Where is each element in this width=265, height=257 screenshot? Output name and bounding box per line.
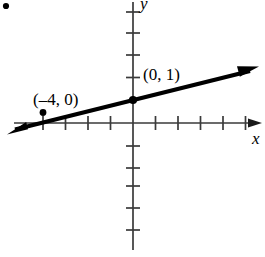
axes-group (14, 2, 262, 250)
x-axis-arrowhead (248, 118, 262, 127)
x-axis-label: x (251, 129, 260, 148)
line-arrowhead-left (7, 122, 28, 134)
point-marker-0-1 (129, 96, 137, 104)
point-marker-neg4-0 (40, 109, 47, 116)
page-speck-mark (3, 3, 9, 9)
point-label-neg4-0: (–4, 0) (33, 90, 78, 109)
graph-figure: (–4, 0) (0, 1) x y (0, 0, 265, 257)
y-axis-label: y (138, 0, 148, 13)
point-label-0-1: (0, 1) (143, 65, 180, 84)
coordinate-plane-graph: (–4, 0) (0, 1) x y (0, 0, 265, 257)
line-arrowhead-right (237, 66, 259, 77)
